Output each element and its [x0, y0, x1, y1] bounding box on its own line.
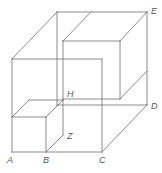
label-a: A [6, 155, 13, 165]
small-lower-cube [12, 100, 63, 152]
label-b: B [43, 155, 49, 165]
label-d: D [151, 101, 158, 111]
label-c: C [99, 155, 106, 165]
inner-upper-cube [63, 12, 147, 100]
label-z: Z [66, 131, 73, 141]
big-cube-depth-edges [12, 12, 147, 152]
cube-diagram: A B C D E H Z [0, 0, 162, 173]
label-h: H [67, 89, 74, 99]
label-e: E [151, 6, 158, 16]
